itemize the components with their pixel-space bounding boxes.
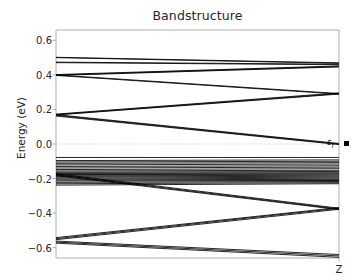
band-line [56, 208, 339, 238]
fermi-level-label: εf [327, 137, 334, 150]
band-line [56, 241, 339, 254]
page-title: Bandstructure [56, 8, 339, 23]
band-line [56, 182, 339, 183]
bandstructure-plot-area [0, 0, 358, 280]
y-axis-tick-label: −0.2 [18, 173, 52, 184]
y-axis-tick-label: 0.4 [18, 69, 52, 80]
band-line [56, 167, 339, 168]
fermi-marker-icon [344, 141, 349, 146]
band-line [56, 66, 339, 75]
y-axis-tick-label: −0.4 [18, 208, 52, 219]
band-line [56, 164, 339, 165]
bandstructure-figure: Bandstructure Energy (eV) 0.60.40.20.0−0… [0, 0, 358, 280]
band-line [56, 160, 339, 161]
band-line [56, 115, 339, 144]
band-line [56, 67, 339, 75]
band-line [56, 166, 339, 167]
y-axis-tick-labels: 0.60.40.20.0−0.2−0.4−0.6 [14, 0, 52, 280]
band-line [56, 170, 339, 171]
band-line [56, 94, 339, 115]
band-line [56, 169, 339, 170]
band-line [56, 163, 339, 164]
band-line [56, 208, 339, 238]
band-line [56, 115, 339, 144]
band-line [56, 116, 339, 145]
y-axis-tick-label: 0.2 [18, 104, 52, 115]
band-line [56, 75, 339, 94]
x-axis-tick-label: Z [336, 264, 343, 275]
band-line [56, 171, 339, 172]
y-axis-tick-label: 0.0 [18, 139, 52, 150]
band-line [56, 75, 339, 94]
y-axis-tick-label: −0.6 [18, 242, 52, 253]
y-axis-tick-label: 0.6 [18, 35, 52, 46]
band-line [56, 209, 339, 239]
band-line [56, 161, 339, 162]
band-line [56, 243, 339, 257]
band-line [56, 242, 339, 256]
band-lines [56, 57, 339, 257]
band-line [56, 93, 339, 114]
